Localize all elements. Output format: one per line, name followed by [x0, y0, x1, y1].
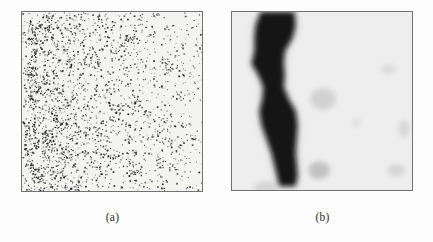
panel-b-blob-canvas [232, 12, 412, 190]
panel-b-caption: (b) [270, 212, 375, 224]
panel-b-image [231, 11, 413, 191]
figure-container: (a) (b) [0, 0, 433, 242]
panel-a-scatter-canvas [22, 12, 202, 191]
panel-a-caption: (a) [60, 212, 165, 224]
panel-a-image [21, 11, 203, 192]
